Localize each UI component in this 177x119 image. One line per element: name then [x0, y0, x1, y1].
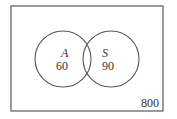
venn-diagram: A 60 S 90 800 [0, 0, 177, 119]
universe-value: 800 [141, 96, 159, 110]
set-a-value: 60 [56, 59, 68, 73]
set-s-value: 90 [102, 59, 114, 73]
set-s-label: S [102, 46, 108, 60]
set-a-label: A [60, 46, 69, 60]
